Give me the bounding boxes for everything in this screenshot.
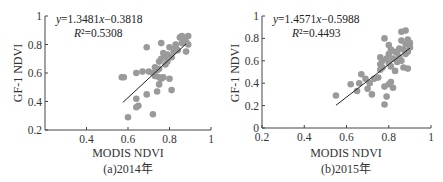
data-point — [381, 35, 388, 42]
data-point — [381, 101, 388, 108]
data-point — [347, 81, 354, 88]
x-tick-label: 0.8 — [382, 131, 397, 143]
data-point — [383, 93, 390, 100]
axes-frame-a — [45, 16, 211, 130]
scatter-points-a — [119, 33, 192, 121]
data-point — [185, 33, 192, 40]
data-point — [156, 81, 163, 88]
data-point — [121, 74, 128, 81]
data-point — [390, 84, 397, 91]
x-axis-title-b: MODIS NDVI — [310, 146, 382, 160]
data-point — [160, 74, 167, 81]
regression-line-a — [123, 44, 186, 103]
data-point — [154, 88, 161, 95]
data-point — [405, 65, 412, 72]
x-tick-label: 0.4 — [79, 133, 94, 145]
x-tick-label: 1 — [428, 131, 434, 143]
data-point — [150, 111, 157, 118]
y-tick-label: 1 — [36, 10, 42, 22]
x-tick-label: 0.4 — [297, 131, 312, 143]
data-point — [135, 103, 142, 110]
data-point — [392, 68, 399, 75]
y-tick-label: 0 — [253, 122, 259, 134]
x-tick-label: 1 — [208, 133, 214, 145]
data-point — [172, 41, 179, 48]
data-point — [125, 114, 132, 121]
r-squared-a: R²=0.5308 — [73, 27, 123, 39]
y-tick-label: 1 — [253, 10, 259, 22]
chart-panel-b: 0.20.40.60.81 00.20.40.60.81 y=1.4571x−0… — [228, 10, 434, 176]
y-tick-label: 0.8 — [28, 39, 43, 51]
regression-equation-b: y=1.4571x−0.5988 — [272, 13, 360, 26]
x-tick-label: 0.6 — [121, 133, 136, 145]
caption-b: (b)2015年 — [321, 162, 371, 176]
regression-equation-a: y=1.3481x−0.3818 — [55, 13, 143, 26]
y-tick-label: 0.2 — [28, 124, 43, 136]
caption-a: (a)2014年 — [103, 162, 152, 176]
scatter-points-b — [333, 27, 414, 108]
y-tick-label: 0.8 — [245, 32, 260, 44]
y-tick-label: 0.4 — [28, 96, 43, 108]
y-axis-title-b: GF-1 NDVI — [228, 44, 242, 102]
data-point — [133, 95, 140, 102]
data-point — [143, 91, 150, 98]
data-point — [375, 74, 382, 81]
scatter-figure: 0.40.60.81 0.20.40.60.81 y=1.3481x−0.381… — [0, 0, 443, 182]
y-axis-title-a: GF-1 NDVI — [11, 44, 25, 102]
data-point — [158, 40, 165, 47]
data-point — [183, 48, 190, 55]
y-tick-label: 0.4 — [245, 77, 260, 89]
data-point — [407, 40, 414, 47]
data-point — [175, 47, 182, 54]
y-tick-label: 0.6 — [245, 55, 260, 67]
data-point — [402, 27, 409, 34]
data-point — [143, 44, 150, 51]
data-point — [133, 70, 140, 77]
data-point — [398, 58, 405, 65]
x-tick-label: 0.6 — [339, 131, 354, 143]
chart-panel-a: 0.40.60.81 0.20.40.60.81 y=1.3481x−0.381… — [11, 10, 214, 176]
data-point — [369, 91, 376, 98]
x-axis-title-a: MODIS NDVI — [92, 146, 164, 160]
data-point — [139, 68, 146, 75]
y-tick-label: 0.2 — [245, 100, 260, 112]
x-tick-label: 0.8 — [162, 133, 177, 145]
data-point — [164, 51, 171, 58]
data-point — [166, 75, 173, 82]
r-squared-b: R²=0.4493 — [291, 27, 341, 39]
data-point — [333, 92, 340, 99]
data-point — [168, 87, 175, 94]
y-tick-label: 0.6 — [28, 67, 43, 79]
